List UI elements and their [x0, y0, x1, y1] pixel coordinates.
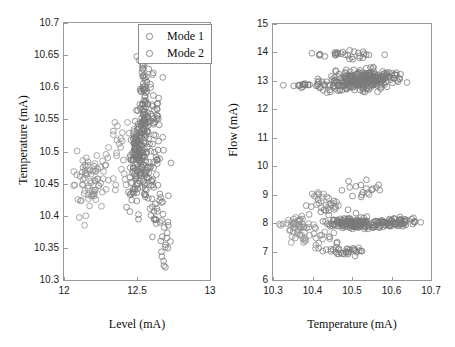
y-tick-label: 7 — [228, 246, 268, 257]
open-circle-icon — [139, 32, 159, 41]
y-tick-label: 10.7 — [19, 17, 59, 28]
scatter-canvas-right — [273, 24, 431, 280]
y-tick-mark — [64, 216, 68, 217]
y-tick-mark — [273, 138, 277, 139]
y-tick-mark — [64, 23, 68, 24]
legend-label-mode2: Mode 2 — [167, 46, 204, 61]
x-tick-label: 12.5 — [112, 285, 162, 296]
panel-left: Mode 1 Mode 2 10.310.3510.410.4510.510.5… — [0, 0, 228, 347]
y-tick-mark — [64, 248, 68, 249]
y-tick-mark — [64, 184, 68, 185]
x-tick-mark — [352, 277, 353, 281]
y-tick-mark — [273, 252, 277, 253]
y-tick-mark — [273, 109, 277, 110]
y-axis-title-right: Flow (mA) — [226, 30, 241, 230]
x-tick-mark — [313, 277, 314, 281]
plot-area-right — [272, 23, 432, 281]
legend-entry-mode2: Mode 2 — [139, 45, 213, 61]
y-tick-label: 15 — [228, 18, 268, 29]
y-tick-mark — [273, 81, 277, 82]
y-tick-mark — [64, 152, 68, 153]
y-tick-mark — [64, 55, 68, 56]
open-circle-icon — [139, 49, 159, 58]
y-tick-mark — [273, 195, 277, 196]
figure-container: Mode 1 Mode 2 10.310.3510.410.4510.510.5… — [0, 0, 455, 347]
x-tick-mark — [392, 277, 393, 281]
x-tick-mark — [137, 277, 138, 281]
y-tick-mark — [273, 52, 277, 53]
x-tick-mark — [273, 277, 274, 281]
y-tick-label: 10.3 — [19, 274, 59, 285]
y-tick-mark — [273, 166, 277, 167]
legend-left: Mode 1 Mode 2 — [138, 24, 212, 64]
y-tick-mark — [273, 24, 277, 25]
y-tick-mark — [64, 119, 68, 120]
x-tick-mark — [210, 277, 211, 281]
x-axis-title-left: Level (mA) — [37, 317, 237, 332]
y-tick-mark — [273, 223, 277, 224]
x-tick-label: 10.7 — [406, 285, 455, 296]
y-tick-mark — [64, 87, 68, 88]
y-axis-title-left: Temperature (mA) — [16, 40, 31, 240]
x-tick-mark — [64, 277, 65, 281]
x-axis-title-right: Temperature (mA) — [252, 317, 452, 332]
legend-entry-mode1: Mode 1 — [139, 28, 213, 44]
legend-label-mode1: Mode 1 — [167, 29, 204, 44]
y-tick-label: 6 — [228, 274, 268, 285]
x-tick-label: 12 — [39, 285, 89, 296]
x-tick-mark — [431, 277, 432, 281]
y-tick-label: 10.35 — [19, 242, 59, 253]
panel-right: 678910111213141510.310.410.510.610.7 Flo… — [228, 0, 455, 347]
